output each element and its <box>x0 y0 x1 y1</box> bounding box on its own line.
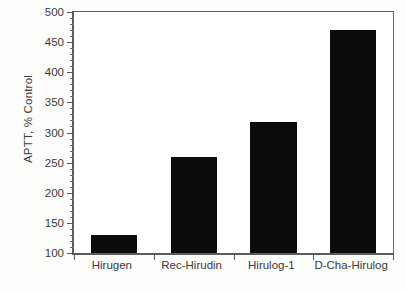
y-axis-minor-tick <box>70 217 74 218</box>
y-axis-tick-label: 300 <box>45 127 64 139</box>
y-axis-minor-tick <box>70 108 74 109</box>
y-axis-major-tick <box>67 12 74 13</box>
y-axis-tick-label: 100 <box>45 247 64 259</box>
y-axis-minor-tick <box>70 229 74 230</box>
y-axis-major-tick <box>67 223 74 224</box>
y-axis-minor-tick <box>70 145 74 146</box>
y-axis-major-tick <box>67 102 74 103</box>
y-axis-minor-tick <box>70 54 74 55</box>
y-axis-minor-tick <box>70 126 74 127</box>
y-axis-minor-tick <box>70 90 74 91</box>
y-axis-minor-tick <box>70 157 74 158</box>
y-axis-minor-tick <box>70 36 74 37</box>
y-axis-minor-tick <box>70 66 74 67</box>
bar-chart-figure: APTT, % Control 100150200250300350400450… <box>0 0 405 291</box>
x-axis-tick <box>74 253 75 260</box>
y-axis-major-tick <box>67 42 74 43</box>
y-axis-minor-tick <box>70 181 74 182</box>
y-axis-minor-tick <box>70 48 74 49</box>
x-axis-category-label: Hirugen <box>92 259 132 271</box>
y-axis-minor-tick <box>70 18 74 19</box>
y-axis-title: APTT, % Control <box>22 9 34 229</box>
y-axis-minor-tick <box>70 120 74 121</box>
y-axis-minor-tick <box>70 241 74 242</box>
y-axis-minor-tick <box>70 169 74 170</box>
x-axis-category-label: D-Cha-Hirulog <box>314 259 388 271</box>
y-axis-minor-tick <box>70 235 74 236</box>
y-axis-minor-tick <box>70 205 74 206</box>
x-axis-category-label: Rec-Hirudin <box>161 259 222 271</box>
bar-slot <box>74 12 154 253</box>
x-axis-tick <box>393 253 394 260</box>
bar[interactable] <box>91 235 137 253</box>
bar-slot <box>313 12 393 253</box>
y-axis-minor-tick <box>70 175 74 176</box>
y-axis-minor-tick <box>70 211 74 212</box>
y-axis-minor-tick <box>70 139 74 140</box>
y-axis-minor-tick <box>70 60 74 61</box>
y-axis-minor-tick <box>70 78 74 79</box>
y-axis-minor-tick <box>70 96 74 97</box>
y-axis-tick-label: 450 <box>45 36 64 48</box>
bar-series <box>74 12 393 253</box>
y-axis-tick-label: 500 <box>45 6 64 18</box>
y-axis-major-tick <box>67 193 74 194</box>
bar[interactable] <box>330 30 376 253</box>
y-axis-minor-tick <box>70 84 74 85</box>
y-axis-minor-tick <box>70 24 74 25</box>
y-axis-major-tick <box>67 253 74 254</box>
x-axis-category-label: Hirulog-1 <box>248 259 295 271</box>
y-axis-tick-label: 250 <box>45 157 64 169</box>
bar-slot <box>154 12 234 253</box>
y-axis-tick-label: 400 <box>45 66 64 78</box>
y-axis-major-tick <box>67 163 74 164</box>
y-axis-tick-label: 200 <box>45 187 64 199</box>
y-axis-tick-label: 350 <box>45 96 64 108</box>
bar-slot <box>234 12 314 253</box>
y-axis-minor-tick <box>70 30 74 31</box>
y-axis-minor-tick <box>70 199 74 200</box>
plot-area: 100150200250300350400450500 <box>72 11 394 255</box>
x-axis-tick <box>154 253 155 260</box>
y-axis-minor-tick <box>70 151 74 152</box>
y-axis-major-tick <box>67 133 74 134</box>
y-axis-minor-tick <box>70 187 74 188</box>
bar[interactable] <box>250 122 296 253</box>
y-axis-major-tick <box>67 72 74 73</box>
x-axis-tick <box>234 253 235 260</box>
y-axis-minor-tick <box>70 247 74 248</box>
bar[interactable] <box>171 157 217 253</box>
y-axis-minor-tick <box>70 114 74 115</box>
y-axis-tick-label: 150 <box>45 217 64 229</box>
